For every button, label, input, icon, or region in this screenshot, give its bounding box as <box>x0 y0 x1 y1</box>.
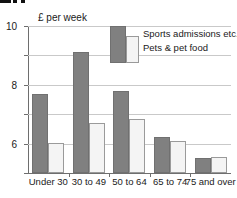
bar-pets-pet-food <box>129 119 145 173</box>
legend-swatch-pets-pet-food <box>126 36 139 63</box>
x-tick <box>109 173 110 177</box>
y-axis-title: £ per week <box>38 12 87 23</box>
legend-label-sports-admissions: Sports admissions etc. <box>143 28 237 39</box>
bar-pets-pet-food <box>48 143 64 173</box>
bar-pets-pet-food <box>170 141 186 173</box>
x-axis-label: 30 to 49 <box>72 176 106 187</box>
bar-sports-admissions <box>113 91 129 173</box>
bar-group <box>69 26 110 173</box>
x-axis-label: 75 and over <box>186 176 236 187</box>
y-tick-label: 10 <box>6 21 17 32</box>
bar-group <box>28 26 69 173</box>
y-tick: 0 <box>24 173 28 174</box>
y-tick-label: 4 <box>11 197 17 198</box>
bar-sports-admissions <box>154 137 170 173</box>
bar-sports-admissions <box>195 158 211 173</box>
bar-sports-admissions <box>32 94 48 173</box>
x-tick <box>69 173 70 177</box>
legend-label-pets-pet-food: Pets & pet food <box>143 42 208 53</box>
grouped-bar-chart: £ per week 0246810 Under 3030 to 4950 to… <box>0 0 237 198</box>
x-axis-label: Under 30 <box>29 176 68 187</box>
axis-baseline <box>28 173 231 174</box>
y-tick-label: 8 <box>11 79 17 90</box>
y-tick-label: 6 <box>11 138 17 149</box>
legend-swatch-sports-admissions <box>110 26 126 63</box>
bar-sports-admissions <box>73 52 89 173</box>
bar-pets-pet-food <box>211 157 227 173</box>
x-axis-label: 50 to 64 <box>112 176 146 187</box>
bar-pets-pet-food <box>89 123 105 173</box>
x-tick <box>150 173 151 177</box>
x-axis-label: 65 to 74 <box>153 176 187 187</box>
